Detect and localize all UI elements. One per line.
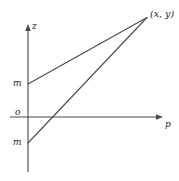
upper-line <box>28 18 147 85</box>
lower-line <box>28 18 147 144</box>
point-xy-label: (x, y) <box>150 9 174 19</box>
origin-label: o <box>15 108 20 117</box>
diagram-canvas <box>0 0 179 181</box>
horizontal-axis <box>10 114 163 120</box>
math-diagram-figure: z p o m m (x, y) <box>0 0 179 181</box>
vertical-axis <box>25 24 31 172</box>
vertical-axis-arrowhead <box>25 24 31 31</box>
horizontal-axis-arrowhead <box>156 114 163 120</box>
upper-m-label: m <box>13 79 22 88</box>
lower-m-label: m <box>13 138 22 147</box>
vertical-axis-label: z <box>32 22 37 31</box>
horizontal-axis-label: p <box>165 120 171 129</box>
